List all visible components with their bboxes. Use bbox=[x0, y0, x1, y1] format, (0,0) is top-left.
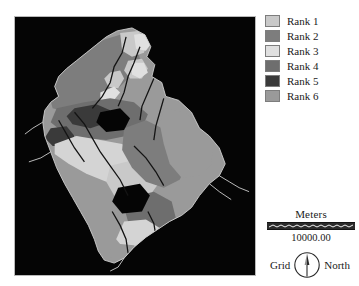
legend-label-rank-6: Rank 6 bbox=[287, 90, 318, 102]
scale-bar-value: 10000.00 bbox=[266, 231, 356, 245]
map-panel[interactable] bbox=[14, 16, 256, 276]
legend-label-rank-5: Rank 5 bbox=[287, 75, 318, 87]
compass-north-label: North bbox=[324, 259, 350, 271]
compass-grid-label: Grid bbox=[270, 259, 290, 271]
legend-item-rank-2[interactable]: Rank 2 bbox=[265, 28, 357, 43]
legend-swatch-rank-4 bbox=[265, 60, 280, 72]
compass-rose-icon bbox=[293, 251, 321, 279]
legend-item-rank-5[interactable]: Rank 5 bbox=[265, 73, 357, 88]
legend-swatch-rank-3 bbox=[265, 45, 280, 57]
legend-swatch-rank-1 bbox=[265, 15, 280, 27]
legend-label-rank-2: Rank 2 bbox=[287, 30, 318, 42]
legend-swatch-rank-2 bbox=[265, 30, 280, 42]
legend-item-rank-6[interactable]: Rank 6 bbox=[265, 88, 357, 103]
scale-bar-title: Meters bbox=[266, 208, 356, 221]
legend-swatch-rank-6 bbox=[265, 90, 280, 102]
legend-item-rank-4[interactable]: Rank 4 bbox=[265, 58, 357, 73]
legend-label-rank-1: Rank 1 bbox=[287, 15, 318, 27]
legend: Rank 1 Rank 2 Rank 3 Rank 4 Rank 5 Rank … bbox=[265, 13, 357, 103]
legend-label-rank-3: Rank 3 bbox=[287, 45, 318, 57]
scale-bar: Meters 10000.00 bbox=[266, 208, 356, 245]
scale-bar-graphic bbox=[267, 222, 355, 230]
legend-swatch-rank-5 bbox=[265, 75, 280, 87]
map-graphic bbox=[15, 17, 255, 275]
legend-item-rank-1[interactable]: Rank 1 bbox=[265, 13, 357, 28]
legend-label-rank-4: Rank 4 bbox=[287, 60, 318, 72]
compass-rose: Grid North bbox=[262, 249, 358, 281]
scale-bar-hatch-icon bbox=[267, 223, 355, 229]
legend-item-rank-3[interactable]: Rank 3 bbox=[265, 43, 357, 58]
